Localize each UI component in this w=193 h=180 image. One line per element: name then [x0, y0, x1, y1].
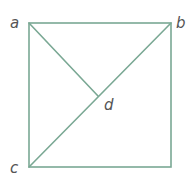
- segment-ad: [29, 23, 98, 96]
- label-c: c: [10, 159, 19, 177]
- label-d: d: [104, 96, 114, 114]
- square-diagram: a b c d: [0, 0, 193, 180]
- label-b: b: [176, 14, 186, 32]
- label-a: a: [10, 14, 19, 32]
